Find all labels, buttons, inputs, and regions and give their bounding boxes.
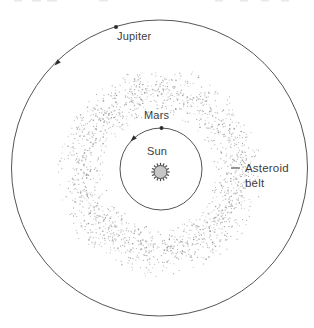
cropped-text-remnant	[99, 0, 108, 2]
sun-icon	[151, 163, 169, 181]
asteroid-belt-label: Asteroid belt	[245, 161, 301, 190]
jupiter-marker	[114, 25, 118, 29]
mars-label: Mars	[144, 109, 169, 122]
mars-marker	[160, 126, 164, 130]
cropped-text-remnant	[215, 0, 223, 2]
cropped-text-remnant	[32, 0, 41, 2]
cropped-text-remnant	[240, 0, 248, 2]
cropped-text-remnant	[47, 0, 57, 2]
cropped-text-remnant	[261, 0, 269, 2]
asteroid-belt-diagram: Jupiter Mars Sun Asteroid belt	[0, 0, 314, 328]
cropped-text-remnant	[14, 0, 22, 2]
jupiter-label: Jupiter	[117, 30, 151, 43]
cropped-text-remnant	[281, 0, 289, 2]
sun-label: Sun	[147, 145, 167, 158]
